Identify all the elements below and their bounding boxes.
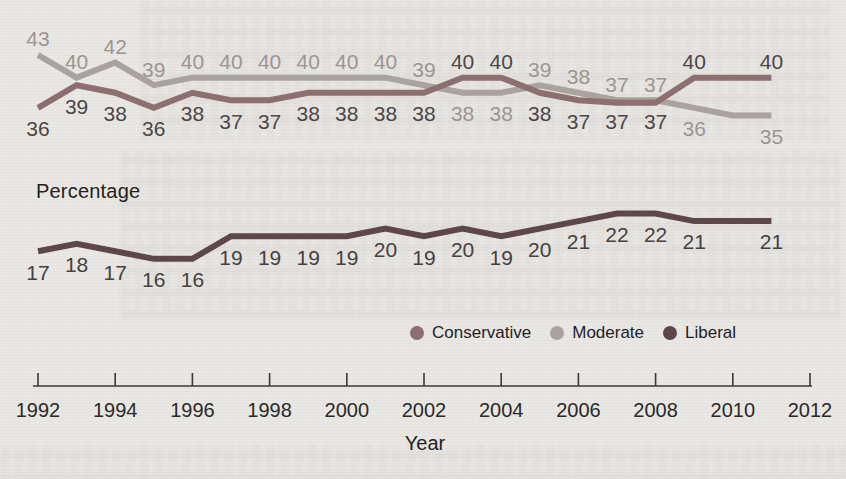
data-label-moderate: 38 bbox=[451, 102, 474, 125]
axis-tick-label: 1994 bbox=[93, 399, 138, 421]
data-label-conservative: 39 bbox=[65, 95, 88, 118]
data-label-conservative: 38 bbox=[528, 102, 551, 125]
data-label-conservative: 37 bbox=[644, 110, 667, 133]
axis-tick-label: 2008 bbox=[633, 399, 678, 421]
data-label-liberal: 19 bbox=[297, 246, 320, 269]
data-label-moderate: 39 bbox=[142, 58, 165, 81]
data-label-conservative: 37 bbox=[605, 110, 628, 133]
axis-tick-label: 1998 bbox=[247, 399, 292, 421]
data-label-conservative: 38 bbox=[335, 102, 358, 125]
data-label-conservative: 40 bbox=[451, 50, 474, 73]
data-label-moderate: 36 bbox=[683, 117, 706, 140]
x-axis-title: Year bbox=[325, 432, 525, 455]
data-label-conservative: 40 bbox=[490, 50, 513, 73]
axis-tick-label: 2000 bbox=[325, 399, 370, 421]
legend-label-moderate: Moderate bbox=[572, 323, 644, 343]
data-label-conservative: 37 bbox=[219, 110, 242, 133]
data-label-moderate: 40 bbox=[219, 50, 242, 73]
chart-legend: Conservative Moderate Liberal bbox=[410, 323, 736, 343]
legend-item-moderate: Moderate bbox=[550, 323, 644, 343]
moderate-dot-icon bbox=[550, 326, 564, 340]
y-axis-title: Percentage bbox=[36, 180, 140, 203]
data-label-liberal: 16 bbox=[181, 268, 204, 291]
legend-item-conservative: Conservative bbox=[410, 323, 531, 343]
axis-tick-label: 2012 bbox=[788, 399, 833, 421]
data-label-moderate: 42 bbox=[104, 35, 127, 58]
data-label-liberal: 19 bbox=[219, 246, 242, 269]
data-label-moderate: 40 bbox=[258, 50, 281, 73]
data-label-conservative: 37 bbox=[567, 110, 590, 133]
political-ideology-trend-chart: 1992199419961998200020022004200620082010… bbox=[0, 0, 846, 479]
data-label-conservative: 36 bbox=[26, 117, 49, 140]
data-label-liberal: 19 bbox=[335, 246, 358, 269]
data-label-moderate: 40 bbox=[335, 50, 358, 73]
data-label-liberal: 16 bbox=[142, 268, 165, 291]
data-label-moderate: 40 bbox=[297, 50, 320, 73]
axis-tick-label: 1992 bbox=[16, 399, 61, 421]
data-label-conservative: 38 bbox=[374, 102, 397, 125]
data-label-conservative: 36 bbox=[142, 117, 165, 140]
data-label-moderate: 39 bbox=[412, 58, 435, 81]
axis-tick-label: 2010 bbox=[711, 399, 756, 421]
data-label-conservative: 38 bbox=[412, 102, 435, 125]
liberal-dot-icon bbox=[663, 326, 677, 340]
data-label-moderate: 38 bbox=[490, 102, 513, 125]
data-label-liberal: 21 bbox=[760, 230, 783, 253]
data-label-liberal: 17 bbox=[104, 261, 127, 284]
data-label-moderate: 37 bbox=[605, 73, 628, 96]
data-label-liberal: 20 bbox=[528, 238, 551, 261]
data-label-moderate: 35 bbox=[760, 125, 783, 148]
data-label-conservative: 37 bbox=[258, 110, 281, 133]
data-label-conservative: 40 bbox=[760, 50, 783, 73]
data-label-moderate: 38 bbox=[567, 65, 590, 88]
conservative-dot-icon bbox=[410, 326, 424, 340]
data-label-moderate: 40 bbox=[374, 50, 397, 73]
data-label-liberal: 19 bbox=[258, 246, 281, 269]
data-label-conservative: 38 bbox=[104, 102, 127, 125]
axis-tick-label: 1996 bbox=[170, 399, 215, 421]
data-label-conservative: 38 bbox=[297, 102, 320, 125]
axis-tick-label: 2006 bbox=[556, 399, 601, 421]
data-label-moderate: 39 bbox=[528, 58, 551, 81]
data-label-moderate: 40 bbox=[65, 50, 88, 73]
data-label-liberal: 21 bbox=[567, 230, 590, 253]
data-label-liberal: 19 bbox=[412, 246, 435, 269]
data-label-conservative: 38 bbox=[181, 102, 204, 125]
data-label-liberal: 22 bbox=[644, 223, 667, 246]
data-label-conservative: 40 bbox=[683, 50, 706, 73]
data-label-moderate: 37 bbox=[644, 73, 667, 96]
data-label-liberal: 18 bbox=[65, 253, 88, 276]
data-label-moderate: 40 bbox=[181, 50, 204, 73]
legend-item-liberal: Liberal bbox=[663, 323, 736, 343]
data-label-liberal: 22 bbox=[605, 223, 628, 246]
data-label-liberal: 19 bbox=[490, 246, 513, 269]
data-label-liberal: 17 bbox=[26, 261, 49, 284]
data-label-liberal: 20 bbox=[451, 238, 474, 261]
legend-label-liberal: Liberal bbox=[685, 323, 736, 343]
scanned-page: 1992199419961998200020022004200620082010… bbox=[0, 0, 846, 479]
legend-label-conservative: Conservative bbox=[432, 323, 531, 343]
axis-tick-label: 2002 bbox=[402, 399, 447, 421]
axis-tick-label: 2004 bbox=[479, 399, 524, 421]
data-label-moderate: 43 bbox=[26, 27, 49, 50]
data-label-liberal: 20 bbox=[374, 238, 397, 261]
data-label-liberal: 21 bbox=[683, 230, 706, 253]
